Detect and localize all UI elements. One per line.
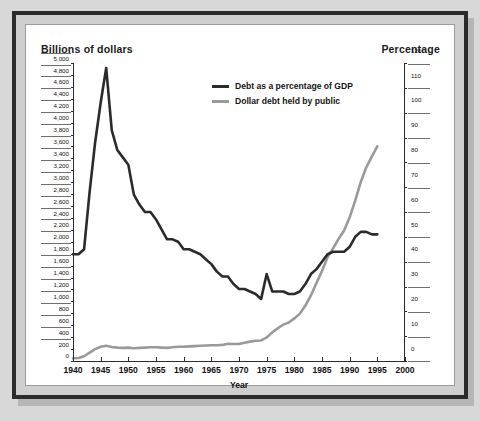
data-series-layer [73,63,405,361]
chart-panel: Billions of dollars Percentage Debt as a… [25,24,455,386]
right-tick-label: 100 [408,89,430,114]
left-tick-label: 0 [41,351,71,363]
right-tick-mark [404,237,407,238]
left-tick-label: 1,800 [41,243,71,255]
x-tick-mark [267,357,268,361]
right-tick-label: 30 [408,263,430,288]
left-tick-mark [71,146,74,147]
left-tick-mark [71,182,74,183]
right-tick-mark [404,336,407,337]
series-line-debt-as-percentage-of-gdp [73,68,377,299]
x-tick-label: 1955 [146,365,165,375]
frame-shadow-bottom [18,399,474,406]
x-tick-label: 1970 [229,365,248,375]
left-tick-label: 5,000 [41,53,71,65]
left-tick-label: 1,400 [41,267,71,279]
x-tick-mark [128,357,129,361]
right-tick-label: 110 [408,65,430,90]
left-tick-mark [71,337,74,338]
x-tick-label: 1990 [340,365,359,375]
left-tick-label: 4,200 [41,100,71,112]
left-tick-label: 400 [41,327,71,339]
left-tick-label: 1,000 [41,291,71,303]
x-tick-mark [101,357,102,361]
left-tick-mark [71,289,74,290]
right-tick-mark [404,138,407,139]
x-tick-mark [377,357,378,361]
left-tick-label: 800 [41,303,71,315]
left-tick-mark [71,361,74,362]
left-tick-label: 4,400 [41,88,71,100]
left-tick-mark [71,266,74,267]
right-tick-label: 50 [408,214,430,239]
x-axis-title: Year [230,380,248,390]
left-tick-label: 3,000 [41,172,71,184]
left-tick-label: 2,400 [41,208,71,220]
plot-area: 02004006008001,0001,2001,4001,6001,8002,… [73,63,405,361]
left-tick-mark [71,313,74,314]
right-tick-label: 70 [408,164,430,189]
left-tick-mark [71,158,74,159]
left-tick-mark [71,75,74,76]
left-tick-label: 4,000 [41,112,71,124]
x-axis-line [73,361,405,362]
left-tick-mark [71,325,74,326]
right-tick-mark [404,262,407,263]
left-tick-mark [71,63,74,64]
left-tick-mark [71,123,74,124]
x-tick-label: 1965 [202,365,221,375]
chart-frame: Billions of dollars Percentage Debt as a… [12,11,468,399]
left-tick-mark [71,254,74,255]
left-tick-mark [71,218,74,219]
x-tick-mark [350,357,351,361]
x-tick-mark [73,357,74,361]
left-tick-mark [71,301,74,302]
left-tick-label: 1,600 [41,255,71,267]
right-tick-mark [404,212,407,213]
right-tick-mark [404,113,407,114]
frame-shadow-right [468,18,474,406]
x-tick-mark [239,357,240,361]
right-tick-label: 120 [408,40,430,65]
right-tick-mark [404,187,407,188]
right-tick-label: 80 [408,139,430,164]
right-tick-mark [404,311,407,312]
x-tick-label: 1945 [91,365,110,375]
left-tick-mark [71,230,74,231]
left-tick-mark [71,135,74,136]
x-tick-label: 1980 [285,365,304,375]
left-tick-mark [71,111,74,112]
left-tick-label: 200 [41,339,71,351]
left-tick-label: 3,600 [41,136,71,148]
left-tick-mark [71,206,74,207]
left-tick-mark [71,278,74,279]
x-tick-mark [294,357,295,361]
left-tick-label: 1,200 [41,279,71,291]
x-tick-mark [405,357,406,361]
x-tick-mark [211,357,212,361]
right-tick-label: 0 [408,338,430,363]
right-tick-mark [404,361,407,362]
left-tick-label: 3,400 [41,148,71,160]
left-tick-label: 4,800 [41,65,71,77]
left-tick-mark [71,242,74,243]
x-tick-label: 1975 [257,365,276,375]
left-tick-label: 2,200 [41,219,71,231]
left-tick-label: 2,800 [41,184,71,196]
left-tick-label: 2,000 [41,231,71,243]
left-tick-label: 2,600 [41,196,71,208]
right-tick-mark [404,162,407,163]
right-tick-label: 40 [408,238,430,263]
right-tick-label: 90 [408,114,430,139]
left-tick-label: 3,800 [41,124,71,136]
x-tick-label: 1950 [119,365,138,375]
right-tick-label: 60 [408,189,430,214]
left-tick-mark [71,349,74,350]
left-tick-mark [71,170,74,171]
x-tick-label: 1995 [368,365,387,375]
right-tick-label: 20 [408,288,430,313]
right-tick-label: 10 [408,313,430,338]
right-tick-mark [404,287,407,288]
x-tick-mark [184,357,185,361]
right-tick-mark [404,63,407,64]
